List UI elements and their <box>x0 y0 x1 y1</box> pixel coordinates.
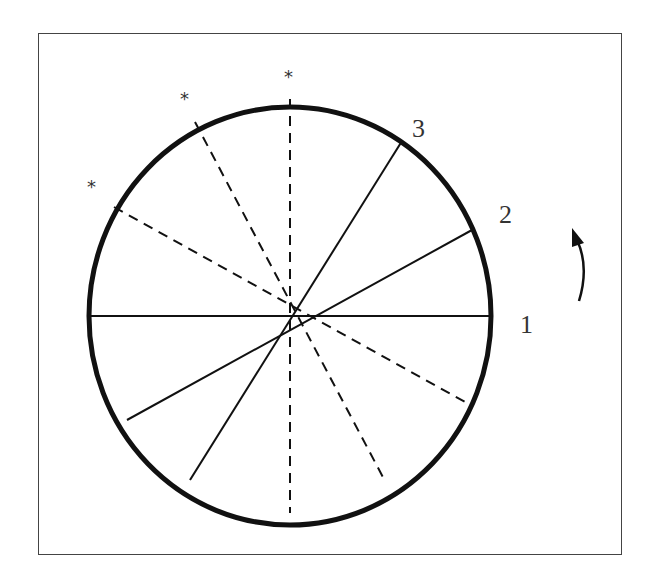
solid-line-2 <box>127 230 472 420</box>
star-marker-148: * <box>87 178 96 196</box>
label-2: 2 <box>499 202 512 228</box>
solid-line-3 <box>190 141 402 480</box>
label-1: 1 <box>520 312 533 338</box>
star-marker-116: * <box>180 90 189 108</box>
label-3: 3 <box>412 116 425 142</box>
diagram-canvas: 1 2 3 * * * <box>0 0 648 578</box>
dashed-diameters <box>114 99 465 513</box>
star-marker-90: * <box>284 68 293 86</box>
disk-diagram-svg <box>0 0 648 578</box>
rotation-arrow-icon <box>572 228 584 301</box>
